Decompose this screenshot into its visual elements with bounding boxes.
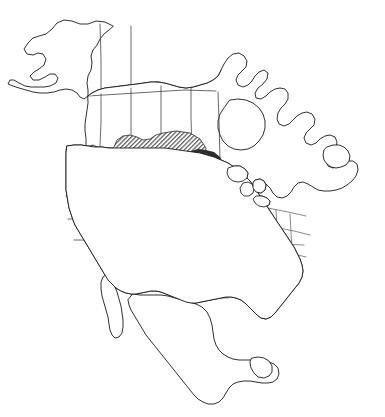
north-america-map-svg	[0, 0, 385, 417]
landmass-newfoundland	[323, 145, 350, 168]
distribution-map-figure	[0, 0, 385, 417]
water-hudson-bay	[218, 99, 265, 150]
